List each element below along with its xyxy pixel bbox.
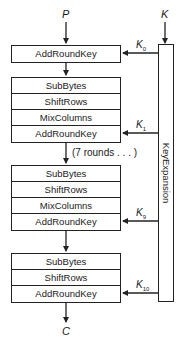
step-addroundkey: AddRoundKey — [12, 214, 120, 230]
step-subbytes: SubBytes — [12, 166, 120, 182]
step-shiftrows: ShiftRows — [12, 94, 120, 110]
final-round-box: SubBytes ShiftRows AddRoundKey — [11, 253, 121, 303]
step-shiftrows: ShiftRows — [12, 182, 120, 198]
step-mixcolumns: MixColumns — [12, 198, 120, 214]
initial-round-box: AddRoundKey — [11, 45, 121, 63]
repeat-rounds-note: (7 rounds . . . ) — [72, 147, 137, 158]
round-1-box: SubBytes ShiftRows MixColumns AddRoundKe… — [11, 77, 121, 143]
step-addroundkey: AddRoundKey — [12, 286, 120, 302]
key-expansion-label: KeyExpansion — [161, 143, 172, 204]
key-base: K — [136, 119, 143, 130]
round-9-box: SubBytes ShiftRows MixColumns AddRoundKe… — [11, 165, 121, 231]
key-sub: 1 — [143, 126, 146, 132]
key-expansion-box: KeyExpansion — [158, 44, 174, 302]
step-subbytes: SubBytes — [12, 254, 120, 270]
step-mixcolumns: MixColumns — [12, 110, 120, 126]
key-label: K — [161, 8, 168, 20]
step-shiftrows: ShiftRows — [12, 270, 120, 286]
key-base: K — [136, 39, 143, 50]
step-addroundkey: AddRoundKey — [12, 126, 120, 142]
round-key-k9: K9 — [136, 207, 146, 220]
key-base: K — [136, 207, 143, 218]
round-key-k0: K0 — [136, 39, 146, 52]
key-sub: 10 — [143, 286, 150, 292]
step-subbytes: SubBytes — [12, 78, 120, 94]
key-sub: 9 — [143, 214, 146, 220]
plaintext-label: P — [62, 8, 69, 20]
step-addroundkey: AddRoundKey — [12, 46, 120, 62]
ciphertext-label: C — [62, 325, 70, 337]
round-key-k10: K10 — [136, 279, 149, 292]
round-key-k1: K1 — [136, 119, 146, 132]
key-sub: 0 — [143, 46, 146, 52]
key-base: K — [136, 279, 143, 290]
